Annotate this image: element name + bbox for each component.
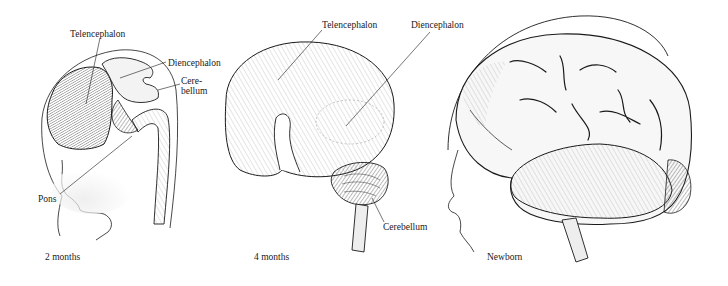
embryo-spinal-cord (132, 109, 170, 224)
fetal-telencephalon (225, 42, 394, 177)
fetal-brainstem (352, 204, 368, 252)
caption-newborn: Newborn (487, 252, 522, 262)
illustration-canvas (0, 0, 728, 286)
label-diencephalon-4mo: Diencephalon (411, 20, 464, 30)
embryo-telencephalon (47, 67, 112, 149)
label-diencephalon-2mo: Diencephalon (168, 58, 221, 68)
brain-development-figure: Telencephalon Diencephalon Cere- bellum … (0, 0, 728, 286)
embryo-pons (112, 100, 138, 133)
panel-4-months (225, 30, 430, 252)
label-telencephalon-2mo: Telencephalon (70, 29, 125, 39)
fetal-cerebellum (331, 162, 388, 204)
caption-4-months: 4 months (254, 252, 289, 262)
label-pons-2mo: Pons (38, 194, 56, 204)
label-cerebellum-2mo-line1: Cere- (181, 76, 202, 86)
panel-newborn (448, 16, 691, 262)
newborn-face-profile (448, 150, 474, 252)
caption-2-months: 2 months (45, 252, 80, 262)
panel-2-months (42, 38, 180, 240)
label-cerebellum-4mo: Cerebellum (383, 222, 427, 232)
label-cerebellum-2mo-line2: bellum (181, 86, 207, 96)
label-telencephalon-4mo: Telencephalon (322, 20, 377, 30)
